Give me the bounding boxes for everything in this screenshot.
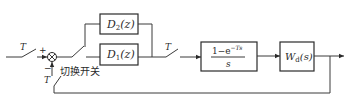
- switch-label: 切换开关: [60, 65, 100, 77]
- svg-text:s: s: [226, 59, 231, 69]
- svg-text:D2(z): D2(z): [106, 18, 135, 32]
- summing-junction: + −: [39, 45, 57, 73]
- feedback-sampler-switch: [54, 76, 61, 86]
- output-sampler: T: [165, 42, 201, 57]
- svg-text:D1(z): D1(z): [106, 48, 135, 62]
- input-sampler-label: T: [20, 42, 27, 52]
- controller-d2-block: D2(z): [100, 14, 138, 34]
- plant-block: Wd(s): [280, 42, 314, 71]
- block-diagram: T + − 切换开关 D2(z) D1(z) T: [0, 0, 351, 106]
- controller-d1-block: D1(z): [100, 44, 138, 65]
- changeover-switch: [72, 46, 84, 57]
- zero-order-hold-block: 1−e−Ts s: [201, 42, 257, 71]
- feedback-sampler-label: T: [44, 75, 51, 85]
- plus-sign: +: [39, 45, 47, 55]
- output-sampler-label: T: [165, 42, 172, 52]
- minus-sign: −: [44, 63, 52, 73]
